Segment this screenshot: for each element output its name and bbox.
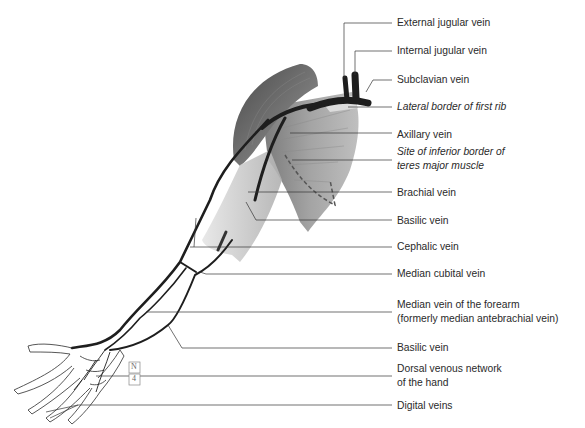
leader-median-cubital	[200, 272, 392, 274]
hand-outline	[14, 344, 124, 424]
label-basilic-vein-upper: Basilic vein	[397, 214, 449, 228]
label-dorsal-venous-network: Dorsal venous network of the hand	[397, 362, 502, 389]
label-axillary-vein: Axillary vein	[397, 128, 452, 142]
label-median-cubital-vein: Median cubital vein	[397, 267, 485, 281]
label-site-inferior-border-teres-major: Site of inferior border of teres major m…	[397, 145, 505, 172]
label-subclavian-vein: Subclavian vein	[397, 73, 469, 87]
median-cubital-vein-shape	[180, 262, 196, 272]
label-lateral-border-first-rib: Lateral border of first rib	[397, 100, 506, 114]
leader-digital-veins	[46, 405, 392, 418]
inset-symbol-bottom-glyph: 4	[132, 374, 136, 383]
leader-basilic-lower	[168, 325, 392, 348]
basilic-vein-lower-shape	[110, 240, 232, 350]
upper-arm-shape	[202, 150, 282, 262]
internal-jugular-vein-shape	[355, 75, 356, 98]
leader-external-jugular	[344, 23, 392, 78]
inset-symbol-top-glyph: N	[131, 362, 137, 371]
leader-subclavian	[366, 80, 392, 92]
label-brachial-vein: Brachial vein	[397, 186, 456, 200]
external-jugular-vein-shape	[345, 78, 347, 100]
label-median-vein-forearm: Median vein of the forearm (formerly med…	[397, 298, 558, 325]
label-digital-veins: Digital veins	[397, 399, 453, 413]
leader-internal-jugular	[355, 51, 392, 75]
label-basilic-vein-lower: Basilic vein	[397, 341, 449, 355]
label-internal-jugular-vein: Internal jugular vein	[397, 44, 487, 58]
median-vein-forearm-shape	[105, 268, 186, 350]
label-external-jugular-vein: External jugular vein	[397, 16, 490, 30]
label-cephalic-vein: Cephalic vein	[397, 240, 459, 254]
